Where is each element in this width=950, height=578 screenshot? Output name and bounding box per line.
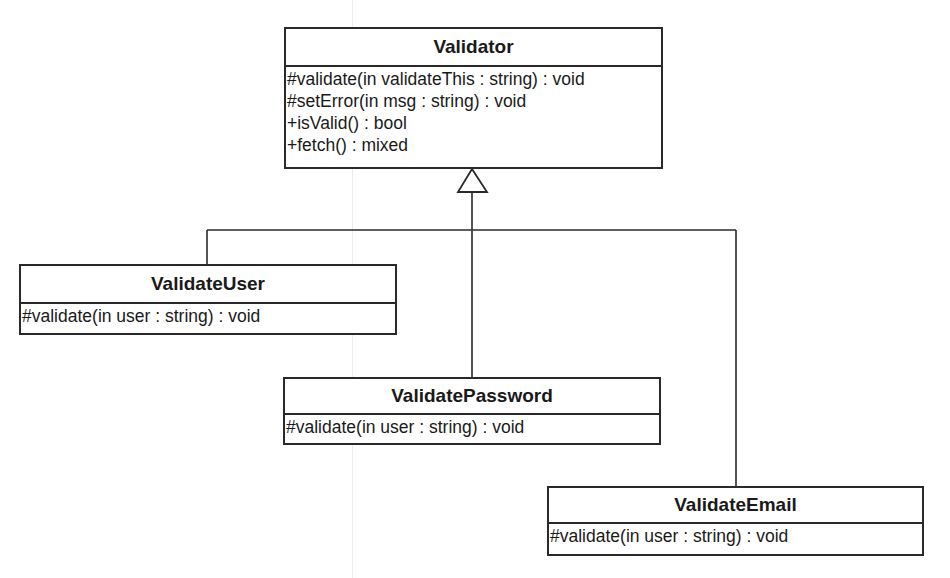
operation: +fetch() : mixed — [287, 134, 661, 156]
class-validateuser[interactable]: ValidateUser #validate(in user : string)… — [19, 264, 397, 335]
class-name: Validator — [286, 29, 661, 67]
operations-compartment: #validate(in user : string) : void — [21, 304, 395, 327]
operation: #setError(in msg : string) : void — [287, 90, 661, 112]
operation: #validate(in user : string) : void — [550, 525, 922, 547]
class-validator[interactable]: Validator #validate(in validateThis : st… — [284, 27, 663, 169]
class-validateemail[interactable]: ValidateEmail #validate(in user : string… — [547, 486, 924, 556]
uml-diagram-canvas: Validator #validate(in validateThis : st… — [0, 0, 950, 578]
operation: #validate(in validateThis : string) : vo… — [287, 68, 661, 90]
operation: #validate(in user : string) : void — [286, 416, 659, 438]
operations-compartment: #validate(in user : string) : void — [549, 524, 922, 547]
class-name: ValidatePassword — [285, 379, 659, 415]
class-name: ValidateUser — [21, 266, 395, 304]
operations-compartment: #validate(in user : string) : void — [285, 415, 659, 438]
operations-compartment: #validate(in validateThis : string) : vo… — [286, 67, 661, 156]
generalization-arrowhead-icon — [458, 169, 487, 192]
operation: #validate(in user : string) : void — [22, 305, 395, 327]
operation: +isValid() : bool — [287, 112, 661, 134]
class-validatepassword[interactable]: ValidatePassword #validate(in user : str… — [283, 377, 661, 445]
class-name: ValidateEmail — [549, 488, 922, 524]
